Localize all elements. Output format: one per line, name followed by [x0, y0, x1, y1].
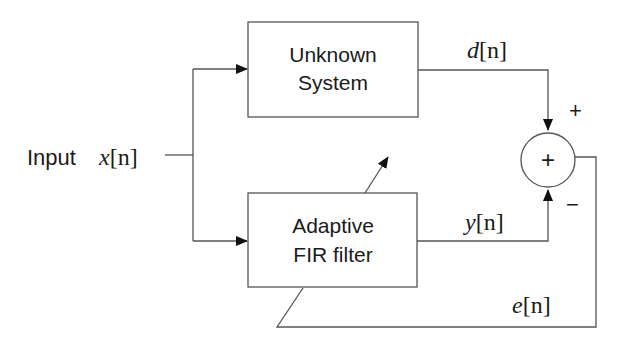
desired-signal-wiring [418, 70, 548, 130]
output-signal-label: y[n] [463, 209, 504, 235]
svg-text:FIR filter: FIR filter [293, 243, 372, 266]
adaptation-arrow-icon [365, 157, 388, 193]
adaptive-fir-filter-block: Adaptive FIR filter [248, 193, 417, 287]
plus-sign-label: + [569, 98, 582, 123]
block-diagram: Input x[n] Unknown System Adaptive FIR f… [0, 0, 618, 342]
svg-text:System: System [298, 71, 368, 94]
error-signal-label: e[n] [512, 292, 551, 318]
input-label: Input [27, 145, 76, 170]
svg-text:Adaptive: Adaptive [292, 214, 374, 237]
svg-text:+: + [541, 146, 555, 173]
input-signal-label: x[n] [98, 144, 138, 170]
minus-sign-label: − [566, 192, 579, 217]
unknown-system-block: Unknown System [248, 22, 418, 117]
diagram-canvas: Input x[n] Unknown System Adaptive FIR f… [0, 0, 618, 342]
input-wiring [165, 69, 247, 241]
desired-signal-label: d[n] [467, 37, 507, 63]
summing-junction: + [521, 133, 575, 187]
svg-text:Unknown: Unknown [289, 43, 377, 66]
